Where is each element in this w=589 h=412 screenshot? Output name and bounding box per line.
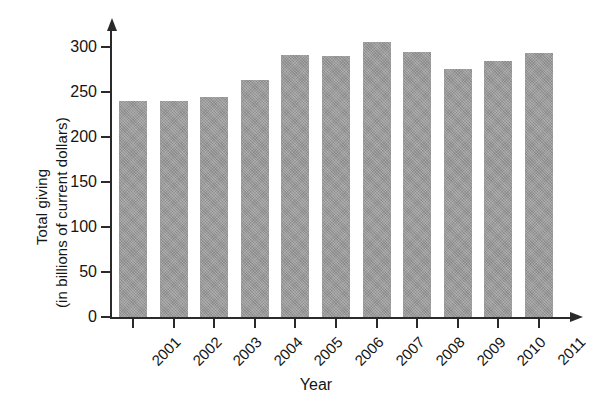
y-axis-tick xyxy=(101,46,110,48)
bar xyxy=(241,80,269,317)
bar xyxy=(322,56,350,317)
x-axis-tick xyxy=(294,319,296,328)
x-axis-tick-label: 2009 xyxy=(474,334,508,368)
y-axis-tick-label: 0 xyxy=(88,309,97,325)
x-axis-arrowhead xyxy=(570,312,583,322)
x-axis-tick-label: 2007 xyxy=(392,334,426,368)
x-axis-tick xyxy=(132,319,134,328)
y-axis-tick-label: 250 xyxy=(70,84,97,100)
x-axis-tick-label: 2001 xyxy=(149,334,183,368)
x-axis-tick xyxy=(376,319,378,328)
x-axis-tick xyxy=(213,319,215,328)
y-axis-tick xyxy=(101,136,110,138)
x-axis-title: Year xyxy=(0,376,586,394)
bar xyxy=(363,42,391,317)
y-axis-tick-label: 200 xyxy=(70,129,97,145)
bar xyxy=(200,97,228,318)
bar xyxy=(484,61,512,318)
bar xyxy=(119,101,147,317)
y-axis-tick-label: 50 xyxy=(79,264,97,280)
x-axis-tick-label: 2002 xyxy=(189,334,223,368)
y-axis-title-line-1: Total giving xyxy=(33,169,50,245)
x-axis-tick-label: 2010 xyxy=(514,334,548,368)
x-axis-tick xyxy=(416,319,418,328)
x-axis-tick xyxy=(538,319,540,328)
y-axis-title-line-2: (in billions of current dollars) xyxy=(53,117,70,308)
bar xyxy=(403,52,431,318)
bar xyxy=(444,69,472,317)
y-axis-tick xyxy=(101,91,110,93)
x-axis-tick-label: 2004 xyxy=(271,334,305,368)
x-axis-tick xyxy=(457,319,459,328)
y-axis-tick xyxy=(101,271,110,273)
x-axis-tick-label: 2008 xyxy=(433,334,467,368)
y-axis-title: Total giving (in billions of current dol… xyxy=(0,0,62,330)
y-axis-tick-label: 150 xyxy=(70,174,97,190)
y-axis-tick-label: 100 xyxy=(70,219,97,235)
bar xyxy=(160,101,188,317)
x-axis-tick-label: 2005 xyxy=(311,334,345,368)
y-axis-tick xyxy=(101,226,110,228)
x-axis-tick-label: 2006 xyxy=(352,334,386,368)
x-axis-tick xyxy=(173,319,175,328)
x-axis-tick xyxy=(254,319,256,328)
y-axis-tick xyxy=(101,181,110,183)
x-axis-title-text: Year xyxy=(300,376,332,394)
y-axis-line xyxy=(110,30,112,319)
y-axis-tick-label: 300 xyxy=(70,39,97,55)
x-axis-tick xyxy=(497,319,499,328)
x-axis-line xyxy=(110,317,572,319)
x-axis-tick xyxy=(335,319,337,328)
y-axis-tick xyxy=(101,316,110,318)
bar xyxy=(525,53,553,317)
plot-area: 050100150200250300 200120022003200420052… xyxy=(110,22,580,319)
y-axis-arrowhead xyxy=(107,18,117,31)
x-axis-tick-label: 2011 xyxy=(554,334,587,367)
x-axis-tick-label: 2003 xyxy=(230,334,264,368)
bar xyxy=(281,55,309,317)
